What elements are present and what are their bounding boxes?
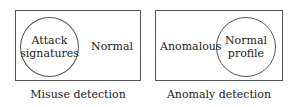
- anomaly-detection-caption: Anomaly detection: [155, 88, 283, 101]
- normal-profile-circle: Normal profile: [216, 17, 276, 77]
- anomalous-label: Anomalous: [160, 40, 222, 53]
- attack-signatures-circle: Attack signatures: [20, 17, 79, 77]
- misuse-detection-caption: Misuse detection: [15, 88, 141, 101]
- normal-label: Normal: [91, 40, 133, 53]
- attack-signatures-label: Attack signatures: [20, 34, 79, 60]
- normal-profile-label: Normal profile: [225, 34, 267, 60]
